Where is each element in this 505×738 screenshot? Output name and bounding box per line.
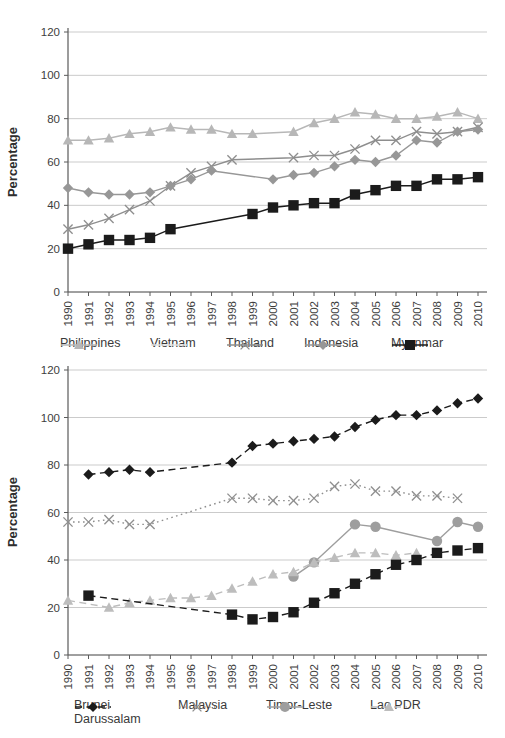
x-tick-label: 1999 bbox=[247, 664, 259, 690]
x-tick-label: 1993 bbox=[124, 664, 136, 690]
legend-marker bbox=[280, 702, 290, 712]
y-tick-label: 120 bbox=[41, 364, 60, 376]
legend-item-malaysia: Malaysia bbox=[178, 698, 227, 712]
x-tick-label: 1994 bbox=[144, 663, 156, 689]
marker-brunei-darussalam bbox=[391, 410, 401, 420]
series-line-timor-leste bbox=[294, 522, 479, 577]
marker-lao-pdr bbox=[247, 576, 257, 585]
marker-myanmar bbox=[391, 181, 401, 191]
x-tick-label: 1998 bbox=[226, 301, 238, 327]
marker-brunei-darussalam bbox=[350, 422, 360, 432]
legend-marker bbox=[88, 702, 98, 712]
y-tick-label: 100 bbox=[41, 412, 60, 424]
marker-myanmar bbox=[370, 185, 380, 195]
x-tick-label: 1992 bbox=[103, 664, 115, 690]
legend-item-timor-leste: Timor-Leste bbox=[266, 698, 332, 712]
x-tick-label: 2001 bbox=[288, 664, 300, 690]
marker-lao-pdr bbox=[288, 567, 298, 576]
marker-brunei-darussalam bbox=[309, 434, 319, 444]
marker-indonesia bbox=[411, 135, 421, 145]
marker-brunei-darussalam bbox=[370, 415, 380, 425]
y-tick-label: 80 bbox=[47, 459, 60, 471]
y-tick-label: 120 bbox=[41, 26, 60, 38]
top-chart: 0204060801001201990199119921993199419951… bbox=[0, 0, 505, 362]
x-tick-label: 2006 bbox=[390, 301, 402, 327]
marker-brunei-darussalam bbox=[104, 467, 114, 477]
marker-brunei-darussalam bbox=[411, 410, 421, 420]
marker-indonesia bbox=[432, 137, 442, 147]
marker--unlabeled-series-black-squares- bbox=[247, 614, 257, 624]
marker-indonesia bbox=[268, 174, 278, 184]
top-chart-grid bbox=[68, 32, 487, 292]
legend-swatch-xmark-icon bbox=[226, 337, 264, 352]
x-tick-label: 2001 bbox=[288, 301, 300, 327]
marker-myanmar bbox=[145, 233, 155, 243]
marker-myanmar bbox=[247, 209, 257, 219]
x-tick-label: 1990 bbox=[62, 301, 74, 327]
x-tick-label: 2008 bbox=[431, 664, 443, 690]
marker-brunei-darussalam bbox=[329, 431, 339, 441]
x-tick-label: 1996 bbox=[185, 664, 197, 690]
x-tick-label: 1994 bbox=[144, 300, 156, 326]
marker-myanmar bbox=[83, 239, 93, 249]
marker-brunei-darussalam bbox=[124, 465, 134, 475]
legend-item-vietnam: Vietnam bbox=[150, 336, 196, 350]
x-tick-label: 2002 bbox=[308, 664, 320, 690]
x-tick-label: 2006 bbox=[390, 664, 402, 690]
x-tick-label: 1991 bbox=[83, 664, 95, 690]
marker-lao-pdr bbox=[124, 598, 134, 607]
x-tick-label: 2008 bbox=[431, 301, 443, 327]
marker-myanmar bbox=[452, 174, 462, 184]
bottom-chart-axes: 0204060801001201990199119921993199419951… bbox=[41, 364, 487, 690]
bottom-chart: 0204060801001201990199119921993199419951… bbox=[0, 362, 505, 738]
y-tick-label: 0 bbox=[54, 649, 60, 661]
x-tick-label: 1995 bbox=[165, 301, 177, 327]
bottom-chart-series bbox=[63, 393, 483, 624]
bottom-chart-y-axis-title: Percentage bbox=[5, 477, 20, 547]
x-tick-label: 1997 bbox=[206, 664, 218, 690]
marker-myanmar bbox=[411, 181, 421, 191]
legend-marker bbox=[318, 340, 328, 350]
marker-indonesia bbox=[473, 124, 483, 134]
legend-swatch-none-icon bbox=[150, 337, 188, 352]
marker-lao-pdr bbox=[227, 583, 237, 592]
top-chart-legend: PhilippinesVietnamThailandIndonesiaMyanm… bbox=[0, 336, 505, 358]
x-tick-label: 1991 bbox=[83, 301, 95, 327]
marker-indonesia bbox=[145, 187, 155, 197]
marker-brunei-darussalam bbox=[432, 405, 442, 415]
marker-myanmar bbox=[63, 243, 73, 253]
x-tick-label: 1992 bbox=[103, 301, 115, 327]
x-tick-label: 1999 bbox=[247, 301, 259, 327]
marker--unlabeled-series-black-squares- bbox=[391, 560, 401, 570]
marker-indonesia bbox=[288, 170, 298, 180]
marker-brunei-darussalam bbox=[145, 467, 155, 477]
y-tick-label: 20 bbox=[47, 602, 60, 614]
marker--unlabeled-series-black-squares- bbox=[83, 590, 93, 600]
marker--unlabeled-series-black-squares- bbox=[473, 543, 483, 553]
x-tick-label: 1993 bbox=[124, 301, 136, 327]
marker-indonesia bbox=[329, 161, 339, 171]
legend-swatch-triangle-icon bbox=[60, 337, 98, 352]
marker-myanmar bbox=[288, 200, 298, 210]
x-tick-label: 2000 bbox=[267, 301, 279, 327]
marker--unlabeled-series-black-squares- bbox=[268, 612, 278, 622]
y-tick-label: 40 bbox=[47, 554, 60, 566]
marker--unlabeled-series-black-squares- bbox=[452, 545, 462, 555]
top-chart-series bbox=[63, 107, 483, 254]
y-tick-label: 40 bbox=[47, 199, 60, 211]
x-tick-label: 2009 bbox=[452, 301, 464, 327]
marker-timor-leste bbox=[370, 522, 380, 532]
x-tick-label: 2003 bbox=[329, 301, 341, 327]
marker-philippines bbox=[165, 122, 175, 131]
legend-swatch-square-icon bbox=[391, 337, 429, 352]
marker-myanmar bbox=[268, 202, 278, 212]
legend-swatch-diamond-icon bbox=[304, 337, 342, 352]
bottom-chart-legend: Brunei DarussalamMalaysiaTimor-LesteLao … bbox=[0, 698, 505, 736]
marker--unlabeled-series-black-squares- bbox=[309, 598, 319, 608]
marker-indonesia bbox=[104, 189, 114, 199]
legend-marker bbox=[405, 340, 415, 350]
marker-timor-leste bbox=[473, 522, 483, 532]
y-tick-label: 60 bbox=[47, 156, 60, 168]
legend-item-philippines: Philippines bbox=[60, 336, 120, 350]
x-tick-label: 1998 bbox=[226, 664, 238, 690]
